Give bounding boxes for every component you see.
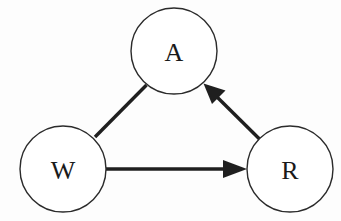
node-a-label: A <box>165 38 184 67</box>
arrowhead-to-r-icon <box>223 160 247 178</box>
edge-r-a <box>204 84 263 142</box>
node-r[interactable]: R <box>247 126 333 212</box>
edge-w-a <box>95 85 147 137</box>
node-w-label: W <box>51 156 76 185</box>
edge-r-a-line <box>214 94 262 142</box>
edge-w-a-line <box>95 85 147 137</box>
diagram-canvas: A W R <box>0 0 341 221</box>
node-w[interactable]: W <box>20 126 106 212</box>
edge-w-r <box>106 160 247 178</box>
node-r-label: R <box>281 156 299 185</box>
node-a[interactable]: A <box>131 8 217 94</box>
graph-diagram: A W R <box>0 0 341 221</box>
